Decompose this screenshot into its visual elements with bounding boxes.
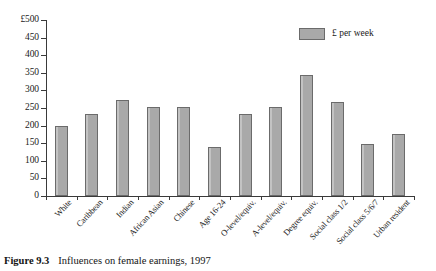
legend-swatch-icon [299,28,325,40]
y-tick-label: 400 [25,50,39,60]
bar-slot [353,20,384,196]
plot-area: 050100150200250300350400450£500 [46,20,414,196]
y-tick-label: 450 [25,33,39,43]
bar [300,75,313,196]
x-axis-category-label: Caribbean [75,198,104,229]
x-axis-category-label: Age 16-24 [197,198,227,230]
y-tick-label: £500 [20,15,39,25]
bar-slot [77,20,108,196]
y-tick-label: 100 [25,156,39,166]
chart-legend: £ per week [299,28,374,40]
bar-slot [230,20,261,196]
bar [55,126,68,196]
y-tick-label: 50 [30,174,39,184]
x-axis-category-label: White [54,198,74,219]
bar [269,107,282,196]
bar-slot [322,20,353,196]
bar-slot [46,20,77,196]
bar-slot [138,20,169,196]
y-tick-label: 150 [25,138,39,148]
bar [392,134,405,196]
bar-slot [169,20,200,196]
bar [361,144,374,196]
figure-container: 050100150200250300350400450£500 WhiteCar… [0,0,436,271]
x-axis-labels: WhiteCaribbeanIndianAfrican AsianChinese… [46,198,414,248]
bar-slot [383,20,414,196]
x-tick-mark [414,196,415,200]
bar [208,147,221,196]
bar-slot [261,20,292,196]
bar-slot [107,20,138,196]
bar [147,107,160,196]
y-tick-label: 250 [25,103,39,113]
figure-caption-label: Figure 9.3 [4,255,49,266]
bar [239,114,252,196]
x-axis-category-label: Chinese [172,198,196,223]
bar [116,100,129,196]
bar-slot [199,20,230,196]
bar [331,102,344,196]
y-tick-label: 0 [34,191,39,201]
legend-label: £ per week [332,29,374,39]
y-tick-label: 300 [25,86,39,96]
bar [85,114,98,196]
bar [177,107,190,196]
bar-slot [291,20,322,196]
figure-caption: Figure 9.3Influences on female earnings,… [4,255,434,267]
bar-group [46,20,414,196]
y-tick-label: 350 [25,68,39,78]
figure-caption-text: Influences on female earnings, 1997 [58,255,211,266]
y-tick-label: 200 [25,121,39,131]
x-axis-category-label: Indian [114,198,135,219]
